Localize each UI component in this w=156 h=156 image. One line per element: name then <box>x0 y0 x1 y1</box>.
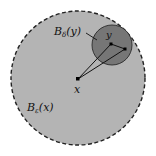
diagram-canvas: Bδ(y) y x Bε(x) <box>0 0 156 156</box>
point-x-text: x <box>74 83 80 96</box>
point-x-marker <box>76 77 80 81</box>
outer-ball-label: Bε(x) <box>27 102 54 115</box>
outer-ball-label-arg: (x) <box>39 101 54 114</box>
point-x-label: x <box>74 84 80 95</box>
point-y-marker <box>110 43 113 46</box>
outer-ball-label-main: B <box>27 101 35 114</box>
inner-ball-label-main: B <box>54 25 62 38</box>
diagram-svg <box>0 0 156 156</box>
inner-ball-label-arg: (y) <box>66 25 81 38</box>
point-y-label: y <box>106 30 112 40</box>
inner-ball-label: Bδ(y) <box>54 26 81 39</box>
point-z-marker <box>124 48 127 51</box>
point-y-text: y <box>106 29 112 40</box>
